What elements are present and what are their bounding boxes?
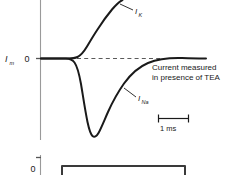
time-scale-bar: 1 ms bbox=[158, 115, 189, 134]
scale-bar-label: 1 ms bbox=[160, 124, 177, 133]
top-panel-zero-label: 0 bbox=[24, 54, 29, 64]
top-panel: I m 0 I K I Na Current measured in prese… bbox=[5, 0, 221, 140]
potassium-label-leader bbox=[120, 4, 133, 10]
command-voltage-step-trace bbox=[62, 166, 185, 175]
top-panel-y-axis-label-subscript: m bbox=[10, 60, 15, 66]
tea-annotation-line-2: in presence of TEA bbox=[152, 73, 221, 82]
voltage-clamp-figure: I m 0 I K I Na Current measured in prese… bbox=[0, 0, 236, 175]
bottom-panel: 0 bbox=[30, 155, 185, 175]
potassium-current-label-subscript: K bbox=[139, 12, 143, 18]
tea-annotation-line-1: Current measured bbox=[152, 63, 216, 72]
top-panel-y-axis-label: I bbox=[5, 54, 8, 64]
potassium-current-curve bbox=[41, 0, 123, 59]
bottom-panel-zero-label: 0 bbox=[30, 164, 35, 174]
sodium-current-label-subscript: Na bbox=[142, 99, 149, 105]
sodium-label-leader bbox=[124, 88, 136, 97]
